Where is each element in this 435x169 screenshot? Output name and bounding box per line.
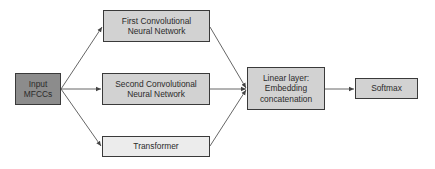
second-cnn-label: Second Convolutional Neural Network [115,79,196,100]
softmax-label: Softmax [371,83,402,94]
input-mfccs-label: Input MFCCs [24,79,52,100]
edge-cnn1-linear [210,27,246,88]
second-cnn-node: Second Convolutional Neural Network [102,73,210,105]
first-cnn-label: First Convolutional Neural Network [122,16,191,37]
edge-transformer-linear [210,90,246,146]
input-mfccs-node: Input MFCCs [15,73,61,105]
linear-layer-node: Linear layer: Embedding concatenation [247,67,325,110]
transformer-label: Transformer [133,141,178,152]
softmax-node: Softmax [355,78,418,99]
transformer-node: Transformer [102,136,210,157]
edge-input-cnn1 [61,27,102,89]
first-cnn-node: First Convolutional Neural Network [103,10,210,42]
edge-input-transformer [61,89,101,146]
linear-layer-label: Linear layer: Embedding concatenation [260,73,312,105]
